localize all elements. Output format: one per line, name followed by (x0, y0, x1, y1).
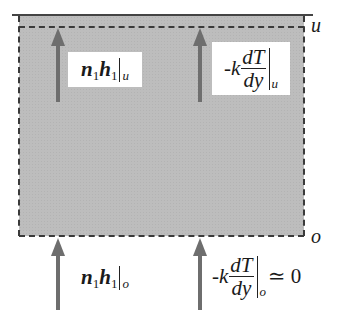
evaluation-subscript: u (272, 77, 279, 90)
fraction-numerator: dT (241, 46, 265, 69)
n-subscript: 1 (93, 68, 100, 84)
bottom-conductive-flux-label: -k dT dy o ≃ 0 (212, 250, 322, 303)
evaluation-subscript: o (122, 277, 129, 290)
h-subscript: 1 (111, 276, 118, 292)
lower-dashed-boundary (19, 235, 304, 237)
minus-k-symbol: -k (212, 264, 228, 289)
fraction-numerator: dT (229, 254, 253, 277)
derivative-fraction: dT dy (229, 254, 253, 299)
n-symbol: n (81, 265, 93, 290)
fraction-denominator: dy (232, 277, 252, 299)
evaluation-subscript: o (260, 285, 267, 298)
h-symbol: h (99, 57, 111, 82)
evaluation-bar: o (119, 266, 129, 290)
h-symbol: h (99, 265, 111, 290)
top-conductive-arrow-icon (198, 44, 202, 102)
evaluation-subscript: u (122, 69, 129, 82)
fraction-denominator: dy (243, 69, 263, 91)
left-dashed-boundary (18, 16, 20, 236)
top-convective-flux-label: n1h1u (68, 52, 142, 87)
top-convective-arrow-icon (56, 44, 60, 102)
evaluation-bar: u (269, 48, 279, 90)
n-subscript: 1 (93, 276, 100, 292)
derivative-fraction: dT dy (241, 46, 265, 91)
right-dashed-boundary (303, 16, 305, 236)
n-symbol: n (81, 57, 93, 82)
evaluation-bar: o (257, 256, 267, 298)
lower-boundary-label: o (311, 225, 321, 248)
bottom-convective-flux-label: n1h1o (68, 260, 142, 295)
evaluation-bar: u (119, 58, 129, 82)
bottom-conductive-arrow-icon (198, 254, 202, 310)
approximately-zero: ≃ 0 (268, 264, 301, 289)
h-subscript: 1 (111, 68, 118, 84)
bottom-convective-arrow-icon (56, 254, 60, 310)
minus-k-symbol: -k (224, 56, 240, 81)
upper-boundary-label: u (311, 14, 321, 37)
top-conductive-flux-label: -k dT dy u (212, 42, 290, 95)
